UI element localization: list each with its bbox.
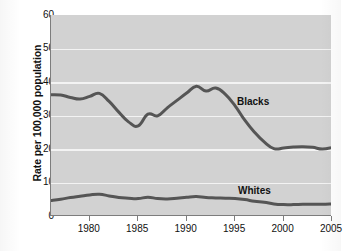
x-tick-label: 1985 (117, 223, 157, 234)
x-tick-mark (89, 216, 90, 221)
series-label-blacks: Blacks (237, 96, 269, 107)
x-tick-label: 2005 (311, 223, 347, 234)
x-tick-label: 1980 (69, 223, 109, 234)
x-tick-label: 1990 (166, 223, 206, 234)
series-plot (51, 15, 331, 216)
series-label-whites: Whites (238, 185, 271, 196)
x-tick-mark (137, 216, 138, 221)
x-tick-mark (283, 216, 284, 221)
series-line-blacks (51, 86, 331, 149)
series-line-whites (51, 194, 331, 205)
x-tick-mark (186, 216, 187, 221)
x-tick-mark (331, 216, 332, 221)
x-tick-label: 1995 (214, 223, 254, 234)
x-tick-label: 2000 (263, 223, 303, 234)
plot-area: Blacks Whites (50, 15, 331, 216)
x-tick-mark (234, 216, 235, 221)
